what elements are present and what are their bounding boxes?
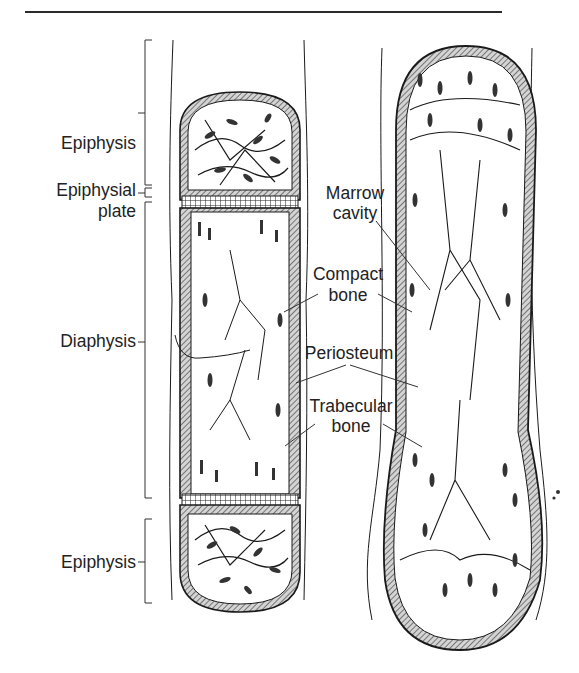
label-marrow-cavity-line2: cavity xyxy=(305,203,405,223)
label-trabecular-bone-line1: Trabecular xyxy=(296,396,406,416)
label-epiphysial-plate-line1: Epiphysial xyxy=(24,180,136,200)
left-bone xyxy=(170,40,308,612)
label-trabecular-bone-line2: bone xyxy=(296,416,406,436)
label-marrow-cavity-line1: Marrow xyxy=(305,183,405,203)
label-compact-bone-line2: bone xyxy=(298,285,398,305)
label-periosteum: Periosteum xyxy=(290,343,408,363)
label-epiphysis-top: Epiphysis xyxy=(24,133,136,153)
label-epiphysis-bottom: Epiphysis xyxy=(24,552,136,572)
label-compact-bone-line1: Compact xyxy=(298,264,398,284)
label-diaphysis: Diaphysis xyxy=(24,331,136,351)
left-brackets xyxy=(138,40,152,603)
label-epiphysial-plate-line2: plate xyxy=(24,201,136,221)
